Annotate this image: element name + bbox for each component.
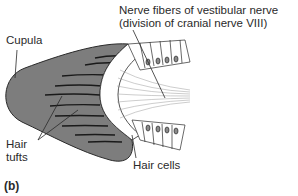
nerve-fibers xyxy=(117,70,190,118)
hair-cells-lower xyxy=(132,120,185,150)
cupula-label: Cupula xyxy=(6,34,42,47)
hair-tufts-label: Hair tufts xyxy=(6,138,28,164)
panel-label: (b) xyxy=(4,180,19,193)
hair-cells-upper xyxy=(128,40,190,70)
hair-cells-label: Hair cells xyxy=(133,159,180,172)
nerve-fibers-label: Nerve fibers of vestibular nerve (divisi… xyxy=(119,4,278,30)
